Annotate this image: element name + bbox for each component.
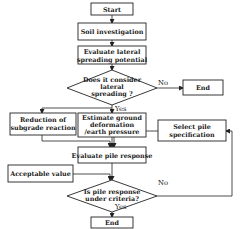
svg-text:subgrade reaction: subgrade reaction <box>10 124 76 132</box>
evaluate-pile-node: Evaluate pile response <box>72 147 153 163</box>
svg-text:End: End <box>196 84 211 92</box>
acceptable-value-node: Acceptable value <box>8 165 73 182</box>
pile-yes-label: Yes <box>114 203 127 211</box>
pile-no-label: No <box>158 179 168 187</box>
lateral-no-label: No <box>158 79 168 87</box>
end-node-bottom: End <box>91 217 133 228</box>
reduction-subgrade-node: Reduction of subgrade reaction <box>10 113 76 135</box>
svg-text:under criteria?: under criteria? <box>85 195 139 203</box>
svg-text:specification: specification <box>169 131 215 139</box>
svg-text:Acceptable value: Acceptable value <box>9 170 71 178</box>
svg-text:/earth pressure: /earth pressure <box>85 128 140 136</box>
select-pile-node: Select pile specification <box>158 120 226 141</box>
svg-text:End: End <box>105 219 120 227</box>
soil-investigation-node: Soil investigation <box>78 23 146 40</box>
svg-text:Evaluate lateral: Evaluate lateral <box>84 48 141 56</box>
flowchart: Start Soil investigation Evaluate latera… <box>0 0 242 229</box>
estimate-deformation-node: Estimate ground deformation /earth press… <box>78 113 146 137</box>
lateral-yes-label: Yes <box>114 105 127 113</box>
end-node-top: End <box>183 80 223 95</box>
svg-text:Select pile: Select pile <box>173 123 211 131</box>
svg-text:Evaluate pile response: Evaluate pile response <box>72 152 153 160</box>
svg-text:Soil investigation: Soil investigation <box>81 28 144 36</box>
svg-text:spreading potential: spreading potential <box>77 56 148 64</box>
svg-text:Reduction of: Reduction of <box>20 116 67 124</box>
evaluate-lateral-node: Evaluate lateral spreading potential <box>77 46 148 64</box>
lateral-spreading-decision: Does it consider lateral spreading ? <box>67 70 157 105</box>
start-node: Start <box>91 3 133 15</box>
svg-text:spreading ?: spreading ? <box>91 90 133 98</box>
pile-response-decision: Is pile response under criteria? <box>67 180 157 212</box>
svg-text:Start: Start <box>103 6 121 14</box>
